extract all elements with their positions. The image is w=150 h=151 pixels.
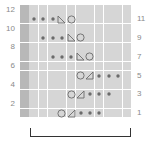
- yarn-over-icon: [76, 71, 85, 80]
- purl-dot-icon: [48, 33, 57, 42]
- chart-cell: [67, 71, 77, 81]
- knitting-chart: 121086421197531: [0, 0, 150, 151]
- decrease-left-icon: [76, 52, 85, 61]
- chart-cell: [39, 62, 49, 72]
- decrease-left-icon: [57, 14, 66, 23]
- chart-cell: [95, 33, 105, 43]
- chart-cell: [123, 99, 133, 109]
- yarn-over-icon: [67, 14, 76, 23]
- purl-dot-icon: [113, 71, 122, 80]
- purl-dot-icon: [104, 90, 113, 99]
- chart-cell: [95, 62, 105, 72]
- right-row-label: 5: [137, 72, 147, 80]
- chart-cell: [67, 80, 77, 90]
- decrease-right-icon: [67, 109, 76, 118]
- left-row-label: 12: [3, 6, 15, 14]
- chart-cell: [123, 90, 133, 100]
- chart-cell: [39, 109, 49, 119]
- chart-cell: [123, 14, 133, 24]
- chart-cell: [123, 71, 133, 81]
- decrease-right-icon: [85, 71, 94, 80]
- purl-dot-icon: [39, 14, 48, 23]
- right-row-label: 1: [137, 109, 147, 117]
- chart-cell: [67, 62, 77, 72]
- purl-dot-icon: [85, 109, 94, 118]
- purl-dot-icon: [48, 14, 57, 23]
- purl-dot-icon: [57, 33, 66, 42]
- left-row-label: 10: [3, 25, 15, 33]
- chart-cell: [39, 71, 49, 81]
- decrease-left-icon: [67, 33, 76, 42]
- purl-dot-icon: [95, 71, 104, 80]
- chart-cell: [123, 52, 133, 62]
- purl-dot-icon: [57, 52, 66, 61]
- chart-cell: [95, 80, 105, 90]
- left-row-label: 2: [3, 100, 15, 108]
- right-row-label: 3: [137, 90, 147, 98]
- yarn-over-icon: [85, 52, 94, 61]
- purl-dot-icon: [104, 71, 113, 80]
- chart-cell: [95, 5, 105, 15]
- chart-cell: [123, 24, 133, 34]
- chart-cell: [123, 43, 133, 53]
- purl-dot-icon: [29, 14, 38, 23]
- left-row-label: 4: [3, 81, 15, 89]
- chart-cell: [95, 52, 105, 62]
- chart-cell: [123, 33, 133, 43]
- chart-cell: [39, 5, 49, 15]
- purl-dot-icon: [48, 52, 57, 61]
- left-row-label: 6: [3, 62, 15, 70]
- chart-cell: [123, 109, 133, 119]
- yarn-over-icon: [57, 109, 66, 118]
- chart-cell: [95, 43, 105, 53]
- yarn-over-icon: [67, 90, 76, 99]
- chart-cell: [123, 62, 133, 72]
- chart-cell: [39, 24, 49, 34]
- chart-cell: [39, 99, 49, 109]
- chart-cell: [95, 14, 105, 24]
- chart-cell: [39, 43, 49, 53]
- purl-dot-icon: [39, 33, 48, 42]
- purl-dot-icon: [67, 52, 76, 61]
- right-row-label: 9: [137, 34, 147, 42]
- repeat-bracket: [30, 128, 131, 137]
- stitch-grid: [20, 5, 132, 118]
- purl-dot-icon: [85, 90, 94, 99]
- chart-cell: [67, 5, 77, 15]
- chart-cell: [67, 24, 77, 34]
- purl-dot-icon: [95, 90, 104, 99]
- right-row-label: 7: [137, 53, 147, 61]
- chart-cell: [123, 5, 133, 15]
- chart-cell: [67, 43, 77, 53]
- yarn-over-icon: [76, 33, 85, 42]
- chart-cell: [123, 80, 133, 90]
- decrease-right-icon: [76, 90, 85, 99]
- chart-cell: [39, 80, 49, 90]
- chart-cell: [95, 99, 105, 109]
- left-row-label: 8: [3, 43, 15, 51]
- right-row-label: 11: [137, 15, 147, 23]
- chart-cell: [39, 52, 49, 62]
- purl-dot-icon: [76, 109, 85, 118]
- chart-cell: [67, 99, 77, 109]
- chart-cell: [39, 90, 49, 100]
- purl-dot-icon: [95, 109, 104, 118]
- chart-cell: [95, 24, 105, 34]
